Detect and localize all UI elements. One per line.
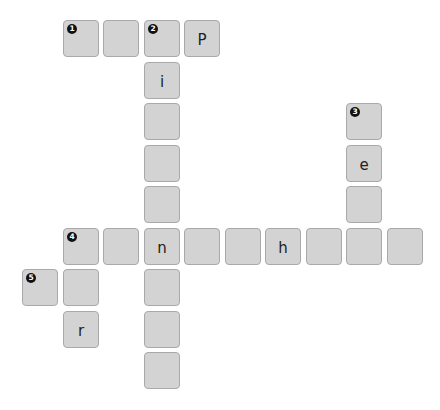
crossword-cell[interactable] [387, 228, 423, 265]
crossword-cell[interactable] [225, 228, 261, 265]
crossword-cell[interactable] [103, 20, 139, 57]
cell-letter: e [359, 156, 368, 174]
crossword-cell[interactable]: e [346, 145, 382, 182]
crossword-cell[interactable]: n [144, 228, 180, 265]
crossword-cell[interactable]: 5 [22, 269, 58, 306]
crossword-cell[interactable] [144, 352, 180, 389]
crossword-cell[interactable]: 3 [346, 103, 382, 140]
crossword-cell[interactable]: r [63, 311, 99, 348]
crossword-cell[interactable] [63, 269, 99, 306]
crossword-cell[interactable] [144, 269, 180, 306]
crossword-cell[interactable] [144, 145, 180, 182]
cell-letter: n [157, 239, 167, 257]
crossword-cell[interactable] [144, 311, 180, 348]
cell-letter: r [78, 322, 84, 340]
crossword-cell[interactable] [306, 228, 342, 265]
crossword-cell[interactable]: h [265, 228, 301, 265]
clue-number-badge: 3 [350, 107, 360, 117]
crossword-cell[interactable] [144, 103, 180, 140]
clue-number-badge: 1 [67, 24, 77, 34]
clue-number-badge: 2 [148, 24, 158, 34]
cell-letter: h [278, 239, 288, 257]
clue-number-badge: 4 [67, 232, 77, 242]
crossword-cell[interactable]: 2 [144, 20, 180, 57]
crossword-cell[interactable]: 4 [63, 228, 99, 265]
crossword-cell[interactable] [103, 228, 139, 265]
clue-number-badge: 5 [26, 273, 36, 283]
crossword-cell[interactable] [184, 228, 220, 265]
crossword-cell[interactable] [346, 186, 382, 223]
crossword-cell[interactable] [144, 186, 180, 223]
crossword-cell[interactable]: P [184, 20, 220, 57]
crossword-cell[interactable]: 1 [63, 20, 99, 57]
crossword-cell[interactable]: i [144, 62, 180, 99]
cell-letter: i [160, 73, 164, 91]
crossword-cell[interactable] [346, 228, 382, 265]
cell-letter: P [197, 31, 206, 49]
crossword-grid: 12Pi3e4nh5r [0, 0, 440, 410]
